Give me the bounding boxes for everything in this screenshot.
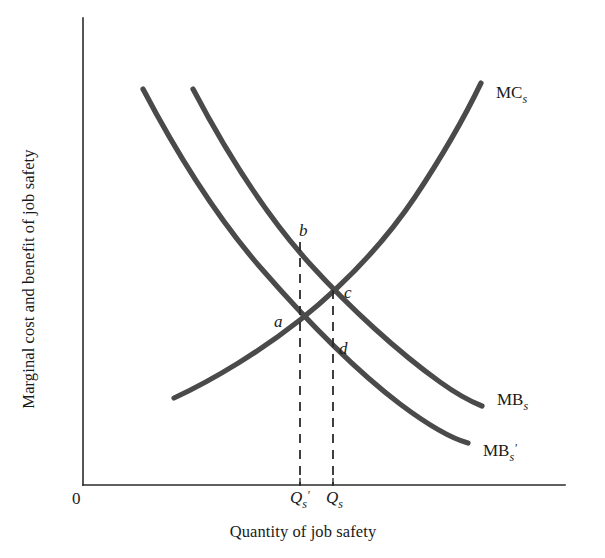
curve-label-mb-prime-s: MBs'	[483, 441, 517, 464]
plot-area: MCs MBs MBs' a b c d Qs′ Qs 0	[0, 0, 605, 558]
point-label-a: a	[274, 312, 283, 331]
x-axis-title: Quantity of job safety	[83, 522, 523, 542]
curve-label-mc-s: MCs	[496, 83, 527, 106]
point-label-c: c	[344, 283, 352, 302]
curve-mc-s	[174, 83, 481, 398]
x-tick-label-q-prime: Qs′	[290, 488, 310, 511]
point-label-d: d	[339, 339, 348, 358]
curve-mb-s	[193, 89, 482, 406]
origin-label: 0	[72, 489, 81, 508]
point-label-b: b	[299, 221, 308, 240]
y-axis-title: Marginal cost and benefit of job safety	[12, 0, 46, 558]
curve-label-mb-s: MBs	[497, 390, 528, 413]
economics-figure: MCs MBs MBs' a b c d Qs′ Qs 0 Marginal c…	[0, 0, 605, 558]
x-tick-label-q: Qs	[326, 488, 343, 511]
